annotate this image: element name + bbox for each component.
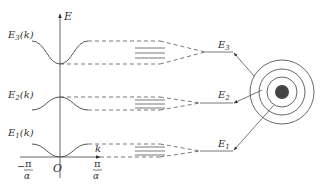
k-axis-label: k — [95, 143, 101, 154]
atom — [250, 60, 314, 124]
svg-text:α: α — [93, 171, 99, 181]
svg-text:π: π — [25, 158, 32, 169]
energy-band-diagram: E k O − π α π α E3(k) E3 E2(k) — [0, 0, 329, 191]
band-e2: E2(k) E2 — [7, 89, 233, 110]
svg-text:E1(k): E1(k) — [7, 127, 34, 140]
arrow-e3 — [234, 53, 254, 76]
band-e3: E3(k) E3 — [7, 29, 233, 64]
svg-text:E3(k): E3(k) — [7, 29, 34, 42]
nucleus — [275, 85, 289, 99]
svg-text:π: π — [94, 158, 101, 169]
arrow-e2 — [234, 90, 262, 103]
e-axis-label: E — [63, 10, 72, 23]
left-tick-label: − π α — [17, 158, 33, 181]
svg-text:E2: E2 — [217, 89, 230, 102]
svg-text:E2(k): E2(k) — [7, 89, 34, 102]
right-tick-label: π α — [93, 158, 102, 181]
svg-text:α: α — [24, 171, 30, 181]
origin-label: O — [53, 162, 62, 175]
svg-text:E3: E3 — [217, 39, 230, 52]
band-e1: E1(k) E1 — [7, 127, 233, 157]
svg-text:E1: E1 — [217, 138, 230, 151]
arrow-e1 — [234, 105, 274, 150]
